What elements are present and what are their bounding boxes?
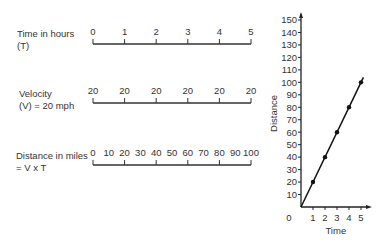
y-tick-label: 120 <box>281 52 297 63</box>
x-axis-label: Time <box>325 225 346 236</box>
y-tick-label: 40 <box>286 151 297 162</box>
y-tick-label: 110 <box>282 64 297 75</box>
data-point <box>347 105 351 109</box>
x-axis-arrow-icon <box>366 205 372 209</box>
y-tick-label: 20 <box>286 176 297 187</box>
y-tick-label: 70 <box>286 114 297 125</box>
y-tick-label: 60 <box>286 127 297 138</box>
data-point <box>335 130 339 134</box>
x-tick-label: 4 <box>346 212 351 223</box>
y-tick-label: 10 <box>286 189 297 200</box>
y-axis-arrow-icon <box>299 12 303 18</box>
x-tick-label: 0 <box>286 212 291 223</box>
data-point <box>311 180 315 184</box>
x-tick-label: 1 <box>310 212 315 223</box>
y-tick-label: 50 <box>286 139 297 150</box>
y-tick-label: 100 <box>281 77 297 88</box>
y-tick-label: 130 <box>281 39 297 50</box>
y-tick-label: 90 <box>286 89 297 100</box>
y-tick-label: 140 <box>281 27 297 38</box>
distance-line <box>301 77 363 207</box>
x-tick-label: 2 <box>322 212 327 223</box>
y-tick-label: 80 <box>286 102 297 113</box>
distance-time-graph: 1020304050607080901001101201301401500123… <box>0 0 386 242</box>
data-point <box>323 155 327 159</box>
x-tick-label: 3 <box>334 212 339 223</box>
y-tick-label: 30 <box>286 164 297 175</box>
y-tick-label: 150 <box>281 14 297 25</box>
data-point <box>359 80 363 84</box>
y-axis-label: Distance <box>268 95 279 132</box>
x-tick-label: 5 <box>358 212 363 223</box>
